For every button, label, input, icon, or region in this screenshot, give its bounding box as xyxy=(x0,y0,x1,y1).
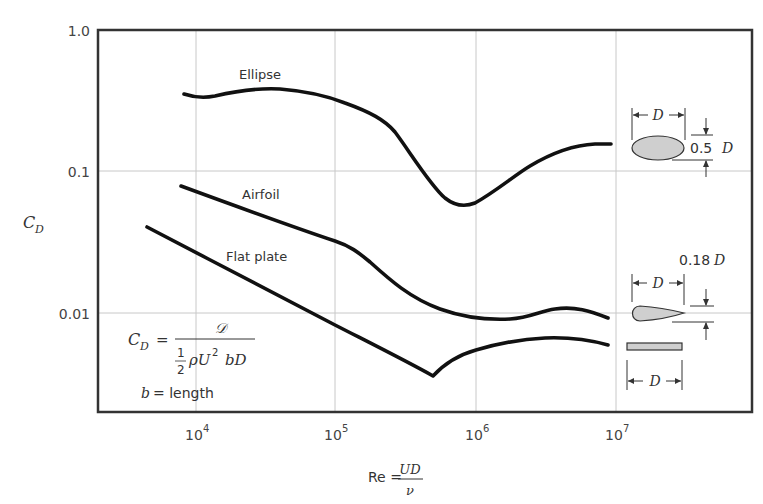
y-tick-0-01: 0.01 xyxy=(59,306,90,322)
svg-text:𝒟: 𝒟 xyxy=(215,320,229,336)
svg-text:D: D xyxy=(651,107,663,123)
drag-coefficient-chart: 1.0 0.1 0.01 10 4 10 5 10 6 10 7 C D Re … xyxy=(0,0,763,504)
svg-text:C: C xyxy=(128,330,140,349)
flat-plate-label: Flat plate xyxy=(226,249,287,264)
svg-text:D: D xyxy=(651,275,663,291)
svg-text:D: D xyxy=(139,340,149,353)
b-definition: b = length xyxy=(141,385,214,401)
x-axis-label: Re = UD ν xyxy=(368,462,423,498)
x-tick-1e5: 10 5 xyxy=(324,423,348,443)
x-tick-1e7: 10 7 xyxy=(605,423,629,443)
svg-text:C: C xyxy=(23,213,35,232)
ellipse-label: Ellipse xyxy=(239,67,281,82)
svg-text:10: 10 xyxy=(605,427,623,443)
svg-text:UD: UD xyxy=(399,462,421,477)
svg-text:=: = xyxy=(156,331,169,349)
y-tick-0-1: 0.1 xyxy=(68,164,90,180)
svg-text:ν: ν xyxy=(406,483,414,498)
y-tick-1: 1.0 xyxy=(68,23,90,39)
svg-text:D: D xyxy=(721,140,733,156)
svg-text:6: 6 xyxy=(483,423,489,434)
svg-text:10: 10 xyxy=(465,427,483,443)
svg-text:1: 1 xyxy=(177,346,185,360)
svg-text:D: D xyxy=(713,252,725,268)
ellipse-shape-diagram: D 0.5 D xyxy=(632,107,733,177)
svg-text:2: 2 xyxy=(212,347,218,358)
svg-text:2: 2 xyxy=(177,363,185,377)
svg-text:4: 4 xyxy=(203,423,209,434)
svg-text:0.5: 0.5 xyxy=(690,140,712,156)
airfoil-shape-diagram: 0.18 D D xyxy=(632,252,725,340)
svg-text:ρU: ρU xyxy=(188,351,212,369)
svg-text:7: 7 xyxy=(623,423,629,434)
svg-text:D: D xyxy=(648,373,660,389)
airfoil-label: Airfoil xyxy=(242,187,280,202)
svg-text:= length: = length xyxy=(153,385,214,401)
svg-text:0.18: 0.18 xyxy=(679,252,710,268)
flat-plate-shape-diagram: D xyxy=(627,343,682,390)
svg-text:D: D xyxy=(34,223,44,236)
svg-text:b: b xyxy=(141,385,150,401)
x-tick-1e4: 10 4 xyxy=(185,423,209,443)
svg-text:5: 5 xyxy=(342,423,348,434)
svg-text:Re =: Re = xyxy=(368,469,402,485)
svg-text:bD: bD xyxy=(225,351,247,369)
y-axis-label: C D xyxy=(23,213,44,236)
svg-text:10: 10 xyxy=(185,427,203,443)
svg-text:10: 10 xyxy=(324,427,342,443)
drag-formula: C D = 𝒟 1 2 ρU 2 bD xyxy=(128,320,255,377)
x-tick-1e6: 10 6 xyxy=(465,423,489,443)
